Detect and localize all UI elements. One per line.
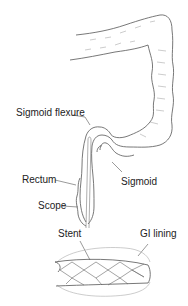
label-sigmoid: Sigmoid	[121, 177, 157, 187]
label-stent: Stent	[58, 229, 81, 239]
colon-illustration	[70, 15, 174, 228]
stent-illustration	[55, 248, 150, 297]
label-sigmoid-flexure: Sigmoid flexure	[16, 108, 85, 118]
colon-stent-diagram	[0, 0, 188, 306]
label-scope: Scope	[38, 201, 66, 211]
label-rectum: Rectum	[22, 175, 56, 185]
label-gi-lining: GI lining	[140, 229, 177, 239]
